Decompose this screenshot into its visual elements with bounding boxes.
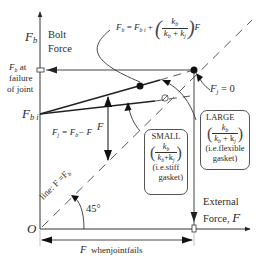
large-box-fraction: (kbkb + kj) (203, 123, 247, 145)
failure-x-marker (192, 225, 196, 232)
failure-dimension-label: F whenjointfails (80, 245, 142, 256)
joint-force-formula: Fj = Fb− F (52, 128, 92, 139)
large-box-note2: gasket) (203, 154, 247, 164)
small-box-fraction: (kbkb+kj) (147, 142, 185, 164)
fj-zero-callout-arrowhead (196, 73, 203, 82)
external-force-arrowhead-up (104, 96, 112, 107)
large-box-callout (164, 81, 196, 120)
fj-zero-label: Fj = 0 (210, 84, 235, 96)
large-ratio-box: LARGE (kbkb + kj) (i.e.flexible gasket) (200, 110, 250, 170)
bolt-load-line-small (40, 101, 155, 114)
paren-left: ( (155, 17, 162, 39)
bolt-load-line-small-dashed (155, 96, 190, 101)
angle-label: 45° (86, 204, 101, 215)
failure-vertical-arrowhead (191, 212, 198, 222)
y-axis-label-line1: Bolt (48, 30, 66, 41)
fbi-label: Fb i (22, 107, 39, 121)
angle-arc (72, 196, 84, 229)
fb-failure-text3: of joint (7, 85, 33, 94)
x-axis-label-line2: Force, F (203, 211, 240, 225)
stiffness-fraction: kbkb + kj (162, 17, 188, 40)
y-axis-symbol: Fb (25, 30, 37, 44)
failure-point-dot (191, 67, 198, 74)
x-axis-label-line1: External (203, 197, 239, 208)
origin-label: O (27, 222, 36, 235)
failure-dimension-arrowhead-right (182, 237, 193, 244)
bolt-load-dot (137, 83, 144, 90)
fb-failure-text2: failure (9, 74, 32, 83)
large-box-callout-arrowhead (162, 80, 171, 86)
fb-failure-marker (37, 68, 44, 72)
small-box-note2: gasket) (147, 173, 185, 183)
bolt-force-formula: Fb = Fb i + (kbkb + kj)F (116, 17, 200, 40)
bolt-load-line-large-dashed (160, 70, 194, 80)
vertical-force-label: F (97, 122, 103, 133)
fb-failure-arrowhead (47, 67, 57, 74)
small-ratio-box: SMALL (kbkb+kj) (i.e.stiff gasket) (144, 129, 188, 195)
y-axis-label-line2: Force (48, 44, 72, 55)
failure-dimension-arrowhead-left (41, 237, 52, 244)
paren-right: ) (188, 17, 195, 39)
